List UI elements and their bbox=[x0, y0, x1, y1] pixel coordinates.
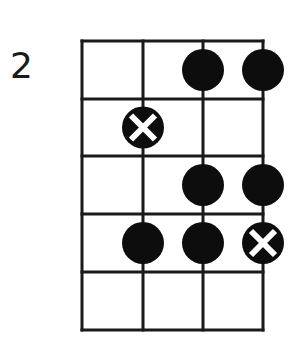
root-note-marker bbox=[122, 107, 164, 149]
finger-dot bbox=[182, 222, 224, 264]
fretboard-diagram bbox=[0, 0, 300, 344]
finger-dot bbox=[242, 49, 284, 91]
root-note-marker bbox=[242, 222, 284, 264]
finger-dot bbox=[122, 222, 164, 264]
finger-dot bbox=[242, 164, 284, 206]
finger-dot bbox=[182, 49, 224, 91]
finger-dot bbox=[182, 164, 224, 206]
